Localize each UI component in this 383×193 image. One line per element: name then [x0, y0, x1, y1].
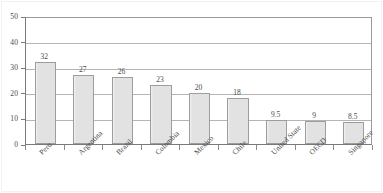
bar [227, 98, 248, 144]
x-axis-tick-mark [218, 145, 219, 150]
bar-value-label: 9.5 [256, 111, 295, 119]
y-axis-tick-label: 50 [0, 13, 18, 21]
bar-chart: 01020304050 3227262320189.598.5 PeruArge… [0, 0, 383, 193]
bar-value-label: 23 [141, 76, 180, 84]
x-axis-tick-mark [256, 145, 257, 150]
bar [35, 62, 56, 144]
gridline [26, 43, 371, 44]
x-axis-tick-mark [102, 145, 103, 150]
x-axis-tick-mark [25, 145, 26, 150]
plot-area [25, 17, 372, 145]
bar-value-label: 32 [25, 53, 64, 61]
y-axis-tick-label: 40 [0, 39, 18, 47]
y-axis-tick-label: 20 [0, 90, 18, 98]
x-axis-tick-mark [179, 145, 180, 150]
bar-value-label: 9 [295, 112, 334, 120]
x-axis-tick-mark [64, 145, 65, 150]
bar-value-label: 27 [64, 66, 103, 74]
bar [112, 77, 133, 144]
y-axis-tick-label: 10 [0, 115, 18, 123]
bar-value-label: 18 [218, 89, 257, 97]
x-axis-tick-mark [141, 145, 142, 150]
x-axis-tick-mark [295, 145, 296, 150]
bar-value-label: 20 [179, 84, 218, 92]
y-axis-tick-label: 0 [0, 141, 18, 149]
x-axis-tick-mark [333, 145, 334, 150]
y-axis-tick-label: 30 [0, 64, 18, 72]
bar-value-label: 26 [102, 68, 141, 76]
bar-value-label: 8.5 [333, 113, 372, 121]
x-axis-tick-mark [372, 145, 373, 150]
